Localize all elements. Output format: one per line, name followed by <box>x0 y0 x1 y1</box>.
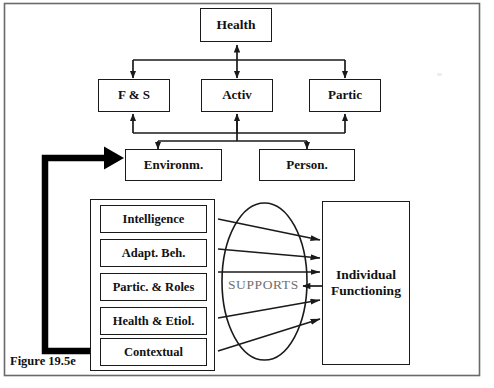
node-contextual[interactable]: Contextual <box>100 338 207 366</box>
node-f-and-s[interactable]: F & S <box>98 79 170 112</box>
node-health-and-etiol[interactable]: Health & Etiol. <box>100 307 207 335</box>
outcome-line-2: Functioning <box>331 283 401 299</box>
scan-speck <box>437 73 442 76</box>
thick-arrowhead <box>104 147 124 170</box>
node-environm[interactable]: Environm. <box>125 149 222 181</box>
node-intelligence[interactable]: Intelligence <box>100 205 207 233</box>
figure-container: Health F & S Activ Partic Environm. Pers… <box>0 0 494 388</box>
node-adapt-beh[interactable]: Adapt. Beh. <box>100 239 207 267</box>
node-activ[interactable]: Activ <box>201 79 273 112</box>
node-person[interactable]: Person. <box>259 149 355 181</box>
node-partic[interactable]: Partic <box>309 79 381 112</box>
node-health[interactable]: Health <box>200 8 272 42</box>
figure-caption: Figure 19.5e <box>10 354 76 369</box>
outcome-line-1: Individual <box>336 267 396 283</box>
supports-label: SUPPORTS <box>228 277 299 293</box>
node-individual-functioning[interactable]: Individual Functioning <box>322 201 410 365</box>
node-partic-and-roles[interactable]: Partic. & Roles <box>100 273 207 301</box>
diagram-connectors <box>0 0 494 388</box>
